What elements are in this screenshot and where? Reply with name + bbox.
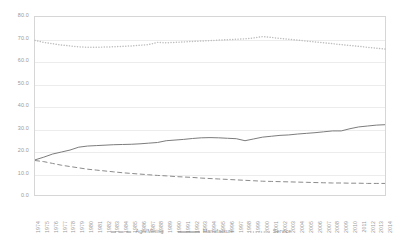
legend-label: Service	[273, 229, 292, 234]
chart-legend: Agri/MiningManufactureService	[0, 226, 402, 238]
y-axis-tick-label: 0.0	[21, 193, 29, 198]
y-axis-tick-label: 60.0	[18, 58, 29, 63]
y-axis-tick-label: 30.0	[18, 126, 29, 131]
y-axis-tick-label: 40.0	[18, 103, 29, 108]
legend-item[interactable]: Agri/Mining	[111, 229, 164, 235]
legend-item[interactable]: Service	[248, 229, 292, 235]
y-axis-tick-label: 80.0	[18, 13, 29, 18]
series-line-manufacture	[35, 125, 385, 160]
y-axis: 80.070.060.050.040.030.020.010.00.0	[0, 16, 32, 196]
series-line-agri-mining	[35, 161, 385, 184]
y-axis-tick-label: 10.0	[18, 171, 29, 176]
y-axis-tick-label: 20.0	[18, 148, 29, 153]
legend-item[interactable]: Manufacture	[178, 229, 234, 235]
legend-label: Agri/Mining	[136, 229, 164, 234]
chart-container: 80.070.060.050.040.030.020.010.00.0 1974…	[0, 0, 402, 243]
series-layer	[35, 17, 385, 195]
y-axis-tick-label: 50.0	[18, 81, 29, 86]
y-axis-tick-label: 70.0	[18, 36, 29, 41]
plot-area	[34, 16, 386, 196]
x-axis: 1974197519761977197819791980198119821983…	[34, 197, 386, 223]
series-line-service	[35, 37, 385, 49]
legend-swatch-agri-mining	[111, 229, 133, 235]
legend-swatch-manufacture	[178, 229, 200, 235]
legend-label: Manufacture	[203, 229, 234, 234]
legend-swatch-service	[248, 229, 270, 235]
